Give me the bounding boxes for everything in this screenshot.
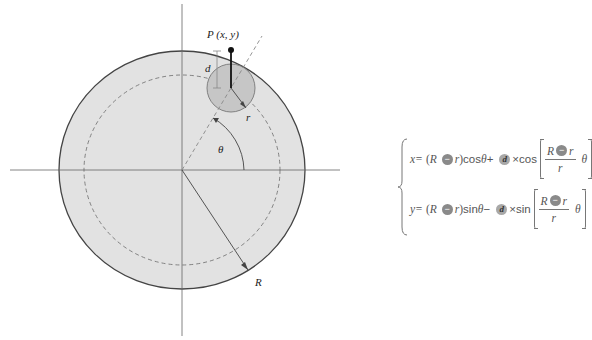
fraction: R − r r: [539, 195, 570, 224]
point-p-marker: [228, 47, 234, 53]
left-brace-icon: [398, 137, 408, 237]
minus-badge-icon: −: [442, 154, 453, 165]
y-equation: y= ( R − r ) sin θ − d × sin R − r r θ: [410, 189, 586, 229]
sin-func-2: sin: [516, 203, 531, 215]
parametric-equations: x= ( R − r ) cos θ + d × cos R − r r θ y…: [398, 137, 584, 237]
times-op: ×: [512, 153, 519, 165]
R-label: R: [254, 276, 262, 288]
bracket-group: R − r r θ: [534, 189, 586, 229]
fraction-denominator: r: [552, 210, 556, 224]
small-r-var: r: [569, 145, 573, 157]
fraction-denominator: r: [558, 160, 562, 174]
minus-badge-icon: −: [550, 195, 561, 206]
big-r-var: R: [430, 153, 437, 165]
big-r-var: R: [547, 145, 554, 157]
x-lhs: x=: [410, 153, 423, 165]
r-label: r: [246, 111, 251, 123]
d-label: d: [205, 62, 211, 74]
fraction-numerator: R − r: [539, 195, 570, 210]
bracket-group: R − r r θ: [540, 139, 592, 179]
theta-var: θ: [582, 153, 588, 165]
minus-op: −: [483, 203, 490, 215]
big-r-var: R: [541, 195, 548, 207]
d-badge-icon: d: [499, 154, 510, 165]
fraction-numerator: R − r: [545, 145, 576, 160]
y-lhs: y=: [410, 203, 423, 215]
minus-badge-icon: −: [556, 145, 567, 156]
cos-func-2: cos: [519, 153, 537, 165]
theta-label: θ: [218, 143, 224, 155]
sin-func: sin: [463, 203, 478, 215]
minus-badge-icon: −: [442, 204, 453, 215]
big-r-var: R: [430, 203, 437, 215]
times-op: ×: [509, 203, 516, 215]
theta-var: θ: [575, 203, 581, 215]
small-r-var: r: [563, 195, 567, 207]
fraction: R − r r: [545, 145, 576, 174]
plus-op: +: [487, 153, 494, 165]
cos-func: cos: [463, 153, 481, 165]
point-p-label: P (x, y): [206, 28, 239, 41]
d-badge-icon: d: [496, 204, 507, 215]
x-equation: x= ( R − r ) cos θ + d × cos R − r r θ: [410, 139, 592, 179]
